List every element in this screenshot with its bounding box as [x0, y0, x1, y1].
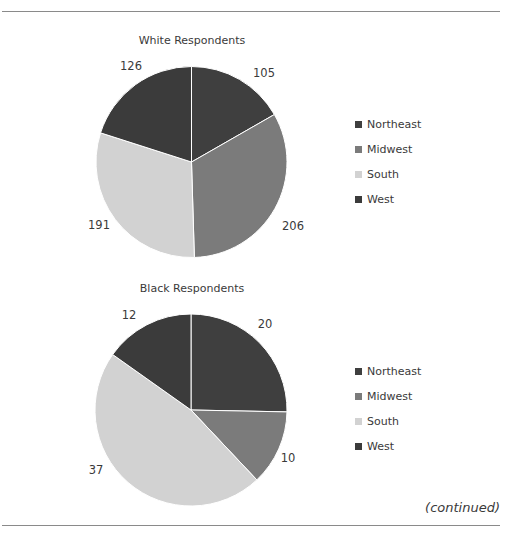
slice-label-midwest: 10 [281, 451, 296, 465]
legend-item-west: West [355, 440, 394, 453]
continued-note: (continued) [425, 500, 500, 515]
slice-label-northeast: 20 [258, 317, 273, 331]
legend-label: West [367, 440, 394, 453]
legend-swatch-icon [355, 418, 362, 425]
legend-swatch-icon [355, 393, 362, 400]
legend-label: Midwest [367, 390, 412, 403]
pie-slice-northeast [191, 314, 287, 412]
slice-label-south: 37 [89, 463, 104, 477]
slice-label-west: 12 [122, 308, 137, 322]
bottom-rule [2, 525, 500, 526]
pie-chart [0, 0, 518, 539]
legend-label: South [367, 415, 399, 428]
legend-item-northeast: Northeast [355, 365, 421, 378]
legend-swatch-icon [355, 443, 362, 450]
legend-item-midwest: Midwest [355, 390, 412, 403]
legend-label: Northeast [367, 365, 421, 378]
legend-swatch-icon [355, 368, 362, 375]
legend-item-south: South [355, 415, 399, 428]
